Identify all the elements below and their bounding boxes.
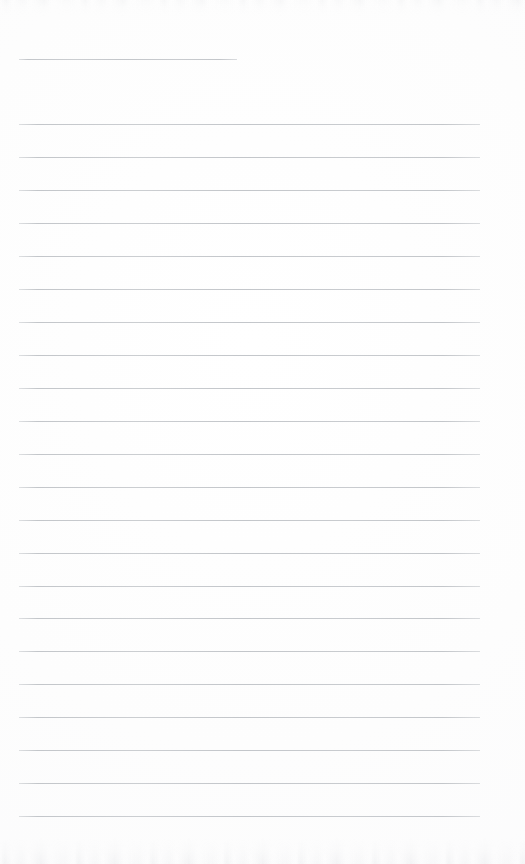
rule-line bbox=[19, 388, 480, 389]
scan-noise-bottom-edge bbox=[0, 838, 525, 864]
rule-line bbox=[19, 454, 480, 455]
paper-surface bbox=[0, 0, 525, 864]
scanned-page bbox=[0, 0, 525, 864]
rule-line bbox=[19, 487, 480, 488]
rule-line bbox=[19, 256, 480, 257]
rule-line bbox=[19, 190, 480, 191]
rule-line bbox=[19, 124, 480, 125]
header-title-rule bbox=[19, 59, 237, 60]
rule-line bbox=[19, 553, 480, 554]
rule-line bbox=[19, 586, 480, 587]
writing-area bbox=[0, 0, 525, 864]
rule-line bbox=[19, 322, 480, 323]
rule-line bbox=[19, 618, 480, 619]
scan-noise-top-edge bbox=[0, 0, 525, 16]
rule-line bbox=[19, 223, 480, 224]
rule-line bbox=[19, 816, 480, 817]
rule-line bbox=[19, 520, 480, 521]
rule-line bbox=[19, 157, 480, 158]
rule-line bbox=[19, 651, 480, 652]
rule-line bbox=[19, 783, 480, 784]
rule-line bbox=[19, 717, 480, 718]
rule-line bbox=[19, 750, 480, 751]
rule-line bbox=[19, 355, 480, 356]
rule-line bbox=[19, 289, 480, 290]
rule-line bbox=[19, 684, 480, 685]
rule-line bbox=[19, 421, 480, 422]
